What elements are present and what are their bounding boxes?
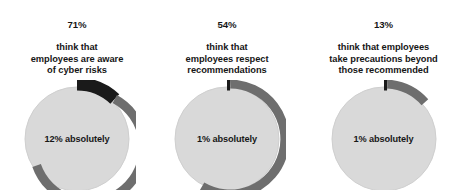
stat-panel-1: 71% think that employees are aware of cy…: [0, 0, 152, 190]
panel-2-disc: [175, 87, 279, 190]
panel-1-donut-chart: [18, 80, 136, 190]
stat-panel-2: 54% think that employees respect recomme…: [152, 0, 302, 190]
panel-3-donut-chart: [325, 80, 443, 190]
panel-2-donut-chart: [168, 80, 286, 190]
panel-2-gauge-wrap: 1% absolutely: [168, 80, 286, 190]
stat-panel-3: 13% think that employees take precaution…: [302, 0, 461, 190]
panel-3-gauge-wrap: 1% absolutely: [325, 80, 443, 190]
panel-2-description: think that employees respect recommendat…: [186, 42, 269, 75]
panel-3-percent: 13%: [329, 19, 437, 31]
panel-1-percent: 71%: [31, 19, 124, 31]
panel-1-headline: 71% think that employees are aware of cy…: [31, 0, 124, 77]
panel-1-description: think that employees are aware of cyber …: [31, 42, 124, 75]
panel-1-gauge-wrap: 12% absolutely: [18, 80, 136, 190]
panel-3-headline: 13% think that employees take precaution…: [329, 0, 437, 77]
panel-2-percent: 54%: [186, 19, 269, 31]
panel-2-headline: 54% think that employees respect recomme…: [186, 0, 269, 77]
infographic-panels: 71% think that employees are aware of cy…: [0, 0, 461, 190]
panel-3-description: think that employees take precautions be…: [329, 42, 437, 75]
